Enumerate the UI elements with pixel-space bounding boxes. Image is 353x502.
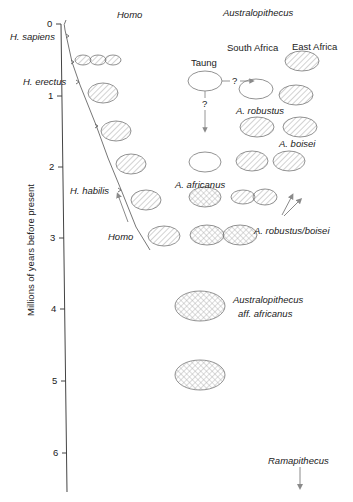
h-erectus-label: H. erectus [23, 77, 66, 87]
taung-label: Taung [191, 58, 217, 68]
tick-1: 1 [48, 91, 53, 101]
taung-question-down: ? [202, 99, 207, 109]
a-robustus-boisei-label: A. robustus/boisei [254, 226, 330, 236]
australopithecus-aff-label: Australopithecus [233, 295, 303, 305]
tick-4: 4 [51, 304, 56, 314]
aff-africanus-label: aff. africanus [238, 309, 292, 319]
tick-2: 2 [49, 162, 54, 172]
east-africa-header: East Africa [292, 42, 337, 52]
tick-0: 0 [47, 19, 52, 29]
tick-3: 3 [50, 233, 55, 243]
h-sapiens-label: H. sapiens [10, 32, 55, 42]
a-africanus-label: A. africanus [175, 180, 225, 190]
time-axis [56, 24, 67, 492]
ramapithecus-label: Ramapithecus [268, 456, 329, 466]
homo-origin-label: Homo [108, 232, 133, 242]
tick-6: 6 [53, 448, 58, 458]
homo-arrow-icon [118, 195, 128, 222]
taung-question-right: ? [232, 76, 237, 86]
south-africa-header: South Africa [227, 43, 278, 53]
homo-specimens [75, 55, 180, 246]
tick-5: 5 [52, 376, 57, 386]
y-axis-label: Millions of years before present [25, 184, 36, 316]
h-habilis-label: H. habilis [70, 186, 109, 196]
homo-column-header: Homo [117, 10, 142, 20]
a-boisei-label: A. boisei [279, 139, 315, 149]
robustus-boisei-arrows [282, 196, 300, 216]
australopithecus-specimens [175, 51, 319, 390]
australopithecus-column-header: Australopithecus [223, 8, 293, 18]
a-robustus-label: A. robustus [236, 106, 284, 116]
